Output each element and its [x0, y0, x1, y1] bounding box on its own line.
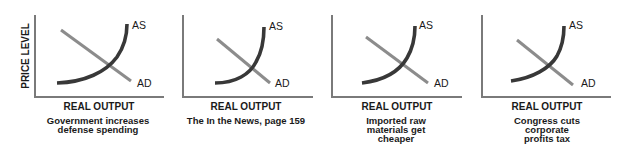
panel-2: AS AD REAL OUTPUT The In the News, page … [183, 15, 313, 126]
panel-4-ad-label: AD [581, 77, 596, 89]
panel-3-x-axis-label: REAL OUTPUT [362, 101, 433, 112]
panel-3-caption-line-3: cheaper [378, 133, 415, 144]
panel-1-as-label: AS [132, 19, 146, 31]
panel-2-axes [183, 15, 313, 97]
panel-1-ad-label: AD [137, 77, 152, 89]
panel-2-caption-line-1: The In the News, page 159 [187, 115, 305, 126]
panel-2-ad-label: AD [275, 77, 290, 89]
panel-4-x-axis-label: REAL OUTPUT [512, 101, 583, 112]
ad-as-diagram-figure: PRICE LEVEL AS AD REAL OUTPUT Government… [0, 0, 621, 151]
panel-3-ad-label: AD [434, 77, 449, 89]
panel-1-caption-line-2: defense spending [58, 124, 139, 135]
panel-1-x-axis-label: REAL OUTPUT [64, 101, 135, 112]
y-axis-label: PRICE LEVEL [20, 23, 31, 89]
panel-4-caption-line-3: profits tax [524, 133, 571, 144]
panel-1: AS AD REAL OUTPUT Government increases d… [35, 15, 164, 135]
panel-2-as-curve [215, 27, 264, 83]
panel-2-x-axis-label: REAL OUTPUT [211, 101, 282, 112]
panel-3: AS AD REAL OUTPUT Imported raw materials… [332, 15, 462, 144]
panel-4-as-label: AS [569, 19, 583, 31]
panel-3-as-label: AS [419, 19, 433, 31]
panel-4: AS AD REAL OUTPUT Congress cuts corporat… [482, 15, 611, 144]
diagram-canvas: PRICE LEVEL AS AD REAL OUTPUT Government… [0, 0, 621, 151]
panel-3-ad-line [366, 37, 428, 83]
panel-2-as-label: AS [269, 20, 283, 32]
